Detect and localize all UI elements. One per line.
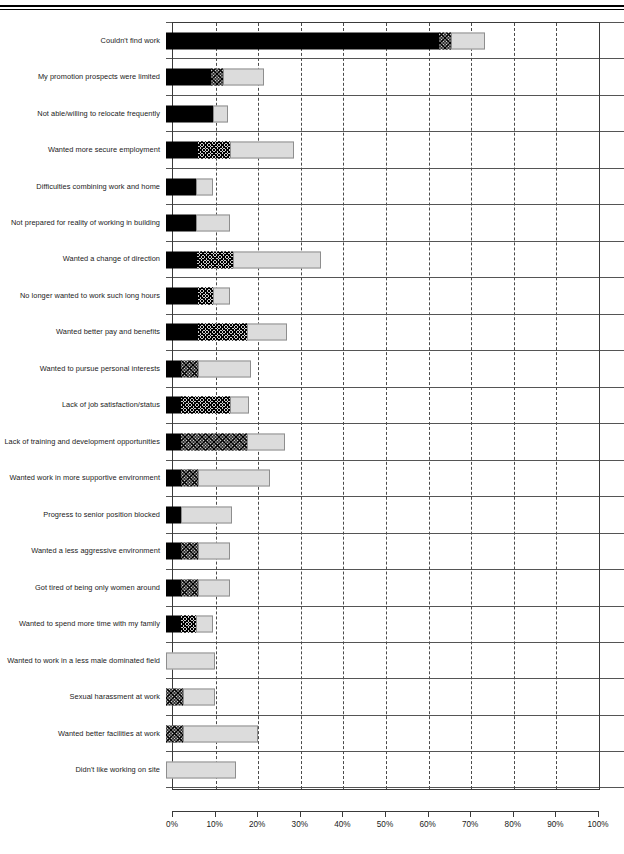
table-row: Wanted better facilities at work [0, 715, 624, 751]
stacked-bar [166, 725, 258, 742]
category-label: Wanted a change of direction [0, 254, 166, 263]
bar-segment-3 [213, 105, 228, 122]
bar-track [166, 678, 624, 714]
category-label: My promotion prospects were limited [0, 72, 166, 81]
bar-segment-2 [198, 324, 247, 341]
bar-track [166, 241, 624, 277]
bar-track [166, 642, 624, 678]
bar-segment-2 [211, 69, 224, 86]
category-label: No longer wanted to work such long hours [0, 291, 166, 300]
stacked-bar [166, 69, 264, 86]
chart-rows: Couldn't find workMy promotion prospects… [0, 22, 624, 788]
x-tick-label: 20% [249, 820, 265, 829]
x-tick-100 [598, 811, 599, 817]
category-label: Didn't like working on site [0, 765, 166, 774]
stacked-bar-chart: Couldn't find workMy promotion prospects… [0, 22, 624, 812]
x-tick-30 [300, 811, 301, 817]
bar-segment-3 [223, 69, 263, 86]
stacked-bar [166, 32, 485, 49]
bar-segment-1 [166, 579, 181, 596]
category-label: Wanted better facilities at work [0, 729, 166, 738]
bar-track [166, 533, 624, 569]
category-label: Wanted a less aggressive environment [0, 546, 166, 555]
table-row: No longer wanted to work such long hours [0, 277, 624, 313]
table-row: Wanted a change of direction [0, 241, 624, 277]
bar-segment-1 [166, 105, 213, 122]
bar-track [166, 460, 624, 496]
category-label: Not able/willing to relocate frequently [0, 109, 166, 118]
bar-track [166, 496, 624, 532]
x-tick-label: 40% [334, 820, 350, 829]
bar-segment-1 [166, 616, 181, 633]
x-tick-0 [172, 811, 173, 817]
table-row: Not prepared for reality of working in b… [0, 204, 624, 240]
x-tick-10 [215, 811, 216, 817]
bar-segment-3 [196, 178, 213, 195]
stacked-bar [166, 142, 294, 159]
category-label: Progress to senior position blocked [0, 510, 166, 519]
x-tick-40 [342, 811, 343, 817]
x-tick-label: 80% [505, 820, 521, 829]
x-tick-label: 90% [547, 820, 563, 829]
bar-segment-1 [166, 470, 181, 487]
bar-track [166, 350, 624, 386]
category-label: Wanted more secure employment [0, 145, 166, 154]
category-label: Wanted to spend more time with my family [0, 619, 166, 628]
bar-segment-3 [183, 689, 215, 706]
stacked-bar [166, 178, 213, 195]
bar-segment-2 [198, 288, 213, 305]
bar-segment-1 [166, 215, 196, 232]
bar-segment-3 [230, 397, 249, 414]
bar-segment-3 [196, 616, 213, 633]
bar-segment-2 [181, 360, 198, 377]
stacked-bar [166, 433, 285, 450]
table-row: Progress to senior position blocked [0, 496, 624, 532]
bar-track [166, 131, 624, 167]
table-row: Wanted work in more supportive environme… [0, 460, 624, 496]
header-rule-thick [0, 5, 624, 7]
bar-segment-1 [166, 397, 181, 414]
bar-segment-2 [181, 433, 247, 450]
category-label: Got tired of being only women around [0, 583, 166, 592]
bar-track [166, 569, 624, 605]
bar-segment-3 [198, 579, 230, 596]
bar-track [166, 715, 624, 751]
stacked-bar [166, 397, 249, 414]
category-label: Lack of training and development opportu… [0, 437, 166, 446]
bar-segment-3 [451, 32, 485, 49]
bar-track [166, 58, 624, 94]
x-tick-label: 70% [462, 820, 478, 829]
table-row: Lack of job satisfaction/status [0, 387, 624, 423]
bar-segment-3 [183, 725, 258, 742]
x-axis-tick-labels: 0%10%20%30%40%50%60%70%80%90%100% [0, 820, 624, 834]
bar-track [166, 314, 624, 350]
category-label: Couldn't find work [0, 36, 166, 45]
bar-segment-1 [166, 433, 181, 450]
category-label: Difficulties combining work and home [0, 182, 166, 191]
bar-track [166, 606, 624, 642]
bar-segment-1 [166, 324, 198, 341]
bar-segment-1 [166, 543, 181, 560]
x-tick-60 [428, 811, 429, 817]
bar-track [166, 277, 624, 313]
bar-track [166, 204, 624, 240]
category-label: Wanted to work in a less male dominated … [0, 656, 166, 665]
bar-segment-3 [230, 142, 294, 159]
x-tick-label: 100% [588, 820, 609, 829]
x-tick-label: 30% [292, 820, 308, 829]
stacked-bar [166, 360, 251, 377]
table-row: Wanted to pursue personal interests [0, 350, 624, 386]
stacked-bar [166, 470, 270, 487]
bar-segment-1 [166, 506, 181, 523]
bar-segment-3 [213, 288, 230, 305]
table-row: Got tired of being only women around [0, 569, 624, 605]
table-row: Wanted better pay and benefits [0, 314, 624, 350]
x-tick-20 [257, 811, 258, 817]
table-row: Wanted a less aggressive environment [0, 533, 624, 569]
x-tick-70 [470, 811, 471, 817]
table-row: Couldn't find work [0, 22, 624, 58]
table-row: Wanted to spend more time with my family [0, 606, 624, 642]
bar-segment-1 [166, 251, 197, 268]
x-tick-label: 10% [206, 820, 222, 829]
stacked-bar [166, 579, 230, 596]
